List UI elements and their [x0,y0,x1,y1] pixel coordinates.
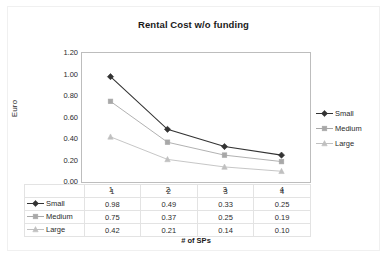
series-large [108,134,284,174]
table-cell: 0.10 [254,224,311,237]
table-row: Medium0.750.370.250.19 [25,211,311,224]
table-cell: 0.33 [197,198,254,211]
legend-key-diamond-icon [27,199,44,208]
table-cell: 0.42 [84,224,141,237]
chart-data-table: 1234Small0.980.490.330.25Medium0.750.370… [24,184,311,237]
chart-title: Rental Cost w/o funding [0,19,387,30]
y-axis-tick-label: 0.40 [52,135,78,143]
table-cell: 0.25 [254,198,311,211]
plot-area [81,52,311,183]
y-axis-tick-label: 0.60 [52,114,78,122]
legend-key-square-icon [27,212,44,221]
table-column-header: 4 [254,185,311,198]
table-column-header: 1 [84,185,141,198]
table-cell: 0.21 [141,224,198,237]
legend-item-label: Small [335,109,354,118]
legend-key-triangle-icon [27,225,44,234]
table-cell: 0.75 [84,211,141,224]
chart-container: Rental Cost w/o funding Euro 1.201.000.8… [0,0,387,258]
legend-item-small[interactable]: Small [316,106,382,121]
series-medium [108,99,284,164]
table-cell: 0.49 [141,198,198,211]
chart-legend: SmallMediumLarge [316,106,382,151]
y-axis-tick-label: 1.20 [52,49,78,57]
y-axis-tick-label: 0.80 [52,92,78,100]
table-cell: 0.14 [197,224,254,237]
table-row-label-medium: Medium [25,211,85,224]
legend-item-medium[interactable]: Medium [316,121,382,136]
y-axis-title: Euro [10,84,19,134]
table-row-label-large: Large [25,224,85,237]
y-axis-tick-label: 1.00 [52,71,78,79]
legend-item-large[interactable]: Large [316,136,382,151]
table-row: Large0.420.210.140.10 [25,224,311,237]
table-row-label-text: Medium [46,212,73,221]
plot-series-svg [82,53,310,182]
table-row-label-small: Small [25,198,85,211]
table-column-header: 2 [141,185,198,198]
legend-key-square-icon [316,124,333,133]
table-column-header: 3 [197,185,254,198]
table-row-key: Medium [27,212,73,221]
table-cell: 0.25 [197,211,254,224]
legend-item-label: Medium [335,124,362,133]
table-row-label-text: Small [46,199,65,208]
table-row-key: Large [27,225,65,234]
table-row-key: Small [27,199,65,208]
table-row: Small0.980.490.330.25 [25,198,311,211]
table-row-label-text: Large [46,225,65,234]
legend-item-label: Large [335,139,354,148]
table-cell: 0.37 [141,211,198,224]
table-header-row: 1234 [25,185,311,198]
legend-key-diamond-icon [316,109,333,118]
table-corner-cell [25,185,85,198]
table-cell: 0.98 [84,198,141,211]
data-table-body: 1234Small0.980.490.330.25Medium0.750.370… [25,185,311,237]
y-axis-tick-label: 0.20 [52,157,78,165]
table-cell: 0.19 [254,211,311,224]
series-small [107,74,284,159]
x-axis-title: # of SPs [81,236,311,245]
y-axis-tick-labels: 1.201.000.800.600.400.200.00 [48,52,78,183]
legend-key-triangle-icon [316,139,333,148]
